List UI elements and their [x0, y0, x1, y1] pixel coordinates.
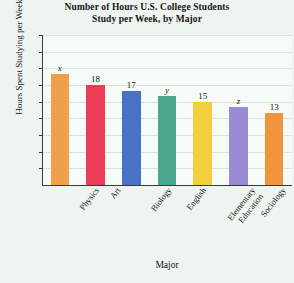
- bar-value-label: 13: [270, 103, 279, 112]
- gridline: [42, 68, 292, 69]
- bar[interactable]: 13: [265, 113, 284, 185]
- gridline: [42, 35, 292, 36]
- bar[interactable]: z: [229, 107, 248, 185]
- x-tick-label-line: Biology: [150, 186, 174, 213]
- x-tick-label: English: [185, 186, 208, 212]
- y-tick-mark: [39, 35, 43, 36]
- chart-title-line-2: Study per Week, by Major: [0, 14, 294, 26]
- y-tick-mark: [39, 118, 43, 119]
- x-tick-label-line: Sociology: [260, 186, 289, 219]
- bar[interactable]: y: [158, 96, 177, 185]
- y-tick-mark: [39, 68, 43, 69]
- chart-title-line-1: Number of Hours U.S. College Students: [0, 2, 294, 14]
- bar-value-label: 15: [198, 92, 207, 101]
- x-tick-label: Physics: [78, 186, 101, 212]
- plot-area: x1817y15z13 369121518212427: [42, 35, 292, 185]
- x-tick-label-line: English: [185, 186, 208, 212]
- y-axis-title: Hours Spent Studying per Week: [14, 0, 24, 142]
- x-axis-title: Major: [42, 260, 292, 270]
- y-tick-mark: [39, 135, 43, 136]
- y-tick-mark: [39, 152, 43, 153]
- x-tick-label-line: Art: [108, 186, 122, 201]
- x-tick-label: ElementaryEducation: [226, 186, 265, 229]
- x-tick-label: Sociology: [260, 186, 289, 219]
- y-tick-mark: [39, 52, 43, 53]
- bar-value-label: x: [58, 64, 62, 73]
- y-tick-mark: [39, 85, 43, 86]
- x-tick-label: Biology: [150, 186, 174, 213]
- bar-value-label: 17: [127, 81, 136, 90]
- x-tick-label: Art: [108, 186, 122, 201]
- x-tick-label-line: Physics: [78, 186, 101, 212]
- bar[interactable]: 15: [193, 102, 212, 185]
- bar-value-label: y: [165, 86, 169, 95]
- bar-value-label: z: [237, 97, 241, 106]
- chart-title: Number of Hours U.S. College Students St…: [0, 2, 294, 25]
- y-axis-line: [42, 35, 43, 186]
- y-tick-mark: [39, 168, 43, 169]
- bar[interactable]: 18: [86, 85, 105, 185]
- bar[interactable]: x: [51, 74, 70, 185]
- bar-value-label: 18: [91, 75, 100, 84]
- x-axis-tick-labels: PhysicsArtBiologyEnglishElementaryEducat…: [42, 186, 294, 254]
- bar[interactable]: 17: [122, 91, 141, 185]
- y-tick-mark: [39, 102, 43, 103]
- gridline: [42, 52, 292, 53]
